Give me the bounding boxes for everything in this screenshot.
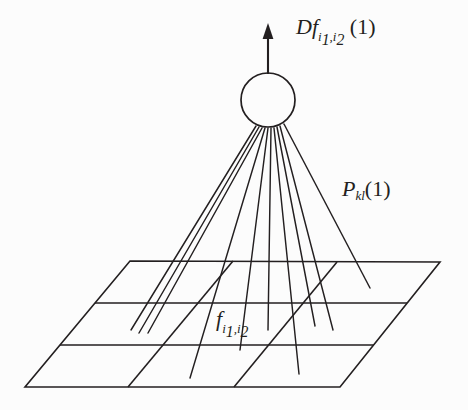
label-projection-base: P xyxy=(342,176,355,201)
label-function-sub-a-index: 1 xyxy=(226,323,234,341)
label-derivative-base: Df xyxy=(296,14,318,39)
label-function-sub-b-index: 2 xyxy=(241,323,249,341)
derivative-arrow xyxy=(263,23,274,74)
label-derivative-argument: (1) xyxy=(350,14,376,39)
ray-10 xyxy=(284,124,370,288)
ray-1 xyxy=(131,126,256,330)
label-derivative-sub-a-index: 1 xyxy=(322,31,330,49)
diagram-svg xyxy=(0,0,468,410)
label-projection-argument: (1) xyxy=(365,176,391,201)
label-projection: Pkl(1) xyxy=(342,176,391,204)
label-function: fi1,i2 xyxy=(216,306,248,341)
label-projection-sub: kl xyxy=(355,188,364,204)
ray-6 xyxy=(268,128,271,330)
label-derivative: Dfi1,i2 (1) xyxy=(296,14,376,49)
figure-canvas: Dfi1,i2 (1) Pkl(1) fi1,i2 xyxy=(0,0,468,410)
source-sphere xyxy=(241,73,295,127)
arrow-head-icon xyxy=(263,23,274,39)
ray-7 xyxy=(274,128,299,374)
